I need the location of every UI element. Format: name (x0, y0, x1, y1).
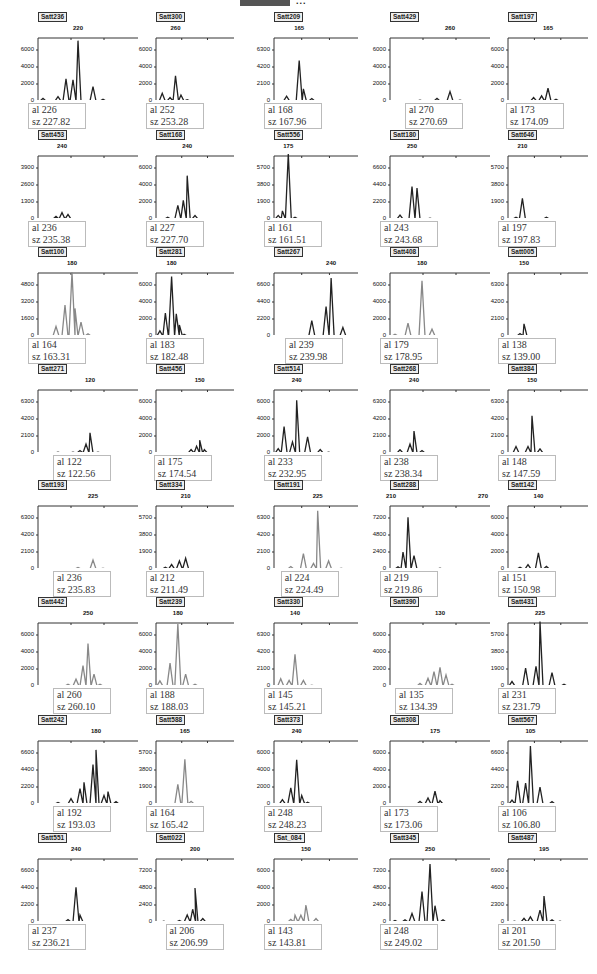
peak-trace (38, 272, 138, 335)
top-axis-tick: 140 (290, 610, 300, 616)
top-axis-tick: 240 (292, 728, 302, 734)
peak-panel: Satt3732406000400020000al 248sz 248.23 (246, 715, 365, 833)
allele-call: al 248 (384, 925, 434, 937)
size-call: sz 253.28 (150, 116, 200, 128)
allele-call: al 248 (268, 807, 318, 819)
electropherogram-plot (362, 500, 494, 568)
electropherogram-plot (246, 32, 362, 100)
allele-call: al 206 (170, 925, 220, 937)
peak-panel: Satt0222007200480024000al 206sz 206.99 (128, 833, 247, 951)
size-call: sz 248.23 (268, 819, 318, 831)
peak-panel: Satt3841506300420021000al 148sz 147.59 (480, 364, 597, 482)
top-axis-tick: 150 (527, 377, 537, 383)
top-axis-tick: 180 (173, 610, 183, 616)
electropherogram-plot (480, 735, 592, 803)
top-axis-tick: 130 (435, 610, 445, 616)
allele-call: al 138 (502, 339, 552, 351)
electropherogram-plot (480, 267, 592, 335)
allele-call: al 173 (510, 104, 560, 116)
allele-call: al 260 (57, 689, 107, 701)
peak-panel: Satt5881655700380019000al 164sz 165.42 (128, 715, 247, 833)
size-call: sz 147.59 (502, 468, 552, 480)
top-axis-tick: 150 (519, 260, 529, 266)
peak-panel: Satt1682406000400020000al 227sz 227.70 (128, 130, 247, 248)
marker-label: Satt308 (390, 715, 419, 725)
peak-trace (274, 905, 358, 921)
size-call: sz 161.51 (268, 234, 318, 246)
peak-trace (508, 553, 588, 568)
allele-call-box: al 236sz 235.38 (28, 221, 86, 247)
top-axis-tick: 210 (517, 143, 527, 149)
peak-trace (508, 746, 588, 803)
electropherogram-plot (128, 384, 238, 452)
peak-trace (274, 154, 358, 218)
size-call: sz 219.86 (384, 584, 434, 596)
size-call: sz 139.00 (502, 351, 552, 363)
marker-label: Satt429 (390, 12, 419, 22)
marker-label: Satt142 (508, 480, 537, 490)
top-axis-tick: 150 (301, 846, 311, 852)
top-axis-tick: 150 (195, 377, 205, 383)
peak-trace (508, 88, 588, 100)
peak-trace (508, 198, 588, 218)
size-call: sz 238.34 (384, 468, 434, 480)
allele-call-box: al 161sz 161.51 (264, 221, 322, 247)
marker-label: Satt487 (508, 833, 537, 843)
allele-call: al 236 (57, 572, 107, 584)
marker-label: Satt197 (508, 12, 537, 22)
marker-label: Satt373 (274, 715, 303, 725)
marker-label: Satt556 (274, 130, 303, 140)
top-axis-tick: 165 (294, 25, 304, 31)
peak-panel: Satt3081756000400020000al 173sz 173.06 (362, 715, 481, 833)
allele-call: al 183 (150, 339, 200, 351)
allele-call-box: al 197sz 197.83 (498, 221, 556, 247)
allele-call-box: al 135sz 134.39 (395, 688, 453, 714)
peak-panel: Satt6462105700380019000al 197sz 197.83 (480, 130, 597, 248)
top-axis-tick: 240 (71, 846, 81, 852)
allele-call: al 237 (32, 925, 82, 937)
allele-call-box: al 148sz 147.59 (498, 455, 556, 481)
electropherogram-plot (10, 267, 142, 335)
electropherogram-plot (246, 500, 362, 568)
peak-panel: Satt5561755700380019000al 161sz 161.51 (246, 130, 365, 248)
allele-call-box: al 192sz 193.03 (53, 806, 111, 832)
electropherogram-plot (362, 735, 494, 803)
peak-trace (508, 416, 588, 452)
allele-call-box: al 183sz 182.48 (146, 338, 204, 364)
size-call: sz 106.80 (502, 819, 552, 831)
marker-label: Satt267 (274, 247, 303, 257)
peak-panel: Satt3002606000400020000al 252sz 253.28 (128, 12, 247, 130)
size-call: sz 150.98 (502, 584, 552, 596)
electropherogram-plot (362, 853, 494, 921)
peak-trace (390, 791, 490, 803)
allele-call: al 173 (384, 807, 434, 819)
electropherogram-plot (246, 735, 362, 803)
allele-call-box: al 164sz 163.31 (28, 338, 86, 364)
size-call: sz 173.06 (384, 819, 434, 831)
allele-call-box: al 151sz 150.98 (498, 571, 556, 597)
electropherogram-plot (362, 267, 494, 335)
electropherogram-plot (246, 853, 362, 921)
electropherogram-plot (10, 735, 142, 803)
electropherogram-plot (10, 150, 142, 218)
peak-panel: Satt4532403900260013000al 236sz 235.38 (10, 130, 129, 248)
peak-trace (38, 41, 138, 100)
size-call: sz 143.81 (268, 937, 318, 949)
allele-call: al 224 (285, 572, 335, 584)
electropherogram-plot (246, 267, 362, 335)
allele-call-box: al 236sz 235.83 (53, 571, 111, 597)
allele-call-box: al 173sz 174.09 (506, 103, 564, 129)
allele-call-box: al 173sz 173.06 (380, 806, 438, 832)
top-axis-tick: 240 (182, 143, 192, 149)
peak-panel: Satt0051506300420021000al 138sz 139.00 (480, 247, 597, 365)
peak-panel: Satt1971656000400020000al 173sz 174.09 (480, 12, 597, 130)
size-call: sz 122.56 (57, 468, 107, 480)
size-call: sz 206.99 (170, 937, 220, 949)
allele-call-box: al 224sz 224.49 (281, 571, 339, 597)
marker-label: Satt646 (508, 130, 537, 140)
electropherogram-plot (362, 617, 494, 685)
marker-label: Satt514 (274, 364, 303, 374)
peak-trace (274, 511, 358, 568)
peak-panel: Satt1932256300420021000al 236sz 235.83 (10, 480, 129, 598)
top-axis-tick: 260 (445, 25, 455, 31)
